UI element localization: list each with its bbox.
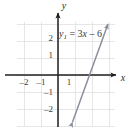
y-axis-label: y [61,0,67,11]
x-tick-label-neg2: –2 [19,77,29,87]
graph-figure: y x 2 1 –1 –2 –2 –1 1 y1 = 3x – 6 [0,0,129,130]
x-tick-label-1: 1 [67,77,72,87]
equation-equals: = 3 [67,28,83,39]
y-tick-label-neg2: –2 [43,104,53,114]
x-tick-label-neg1: –1 [36,77,46,87]
coordinate-plane-svg: y x 2 1 –1 –2 –2 –1 1 y1 = 3x – 6 [0,0,129,130]
y-tick-label-2: 2 [49,33,54,43]
y-tick-label-1: 1 [49,50,54,60]
x-axis-label: x [120,72,126,83]
equation-constant: – 6 [87,28,102,39]
y-tick-label-neg1: –1 [43,87,53,97]
equation-label: y1 = 3x – 6 [58,28,102,41]
